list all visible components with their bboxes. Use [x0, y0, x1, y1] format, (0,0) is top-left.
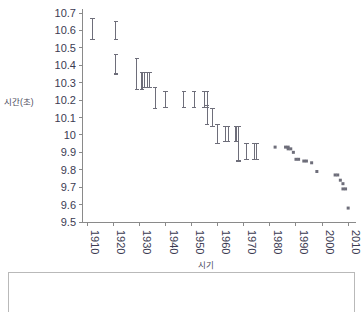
- y-tick-label: 9.6: [61, 199, 76, 211]
- data-point-marker: [344, 187, 347, 190]
- error-bar: [215, 124, 219, 143]
- error-bar: [163, 91, 167, 107]
- x-tick-label: 1980: [272, 230, 284, 254]
- data-point-marker: [339, 179, 342, 182]
- error-bar: [114, 22, 118, 39]
- x-tick-label: 2000: [324, 230, 336, 254]
- error-bar: [252, 144, 256, 160]
- y-tick-label: 9.8: [61, 164, 76, 176]
- x-tick-label: 1930: [141, 230, 153, 254]
- data-point-marker: [347, 207, 350, 210]
- error-bar: [234, 126, 238, 142]
- data-point-marker: [315, 170, 318, 173]
- error-bar: [145, 72, 149, 88]
- data-point-marker: [305, 160, 308, 163]
- x-tick-label: 1960: [220, 230, 232, 254]
- data-point-marker: [310, 161, 313, 164]
- data-point-marker: [294, 158, 297, 161]
- error-bar: [210, 109, 214, 126]
- error-bar: [192, 91, 196, 107]
- x-tick-label: 1940: [168, 230, 180, 254]
- error-bar: [226, 126, 230, 142]
- error-bar: [205, 91, 209, 107]
- y-tick-label: 10.3: [55, 77, 76, 89]
- y-tick-label: 10: [64, 129, 76, 141]
- y-tick-label: 9.7: [61, 181, 76, 193]
- y-tick-label: 10.6: [55, 24, 76, 36]
- x-tick-label: 1910: [89, 230, 101, 254]
- y-tick-label: 10.2: [55, 94, 76, 106]
- x-axis-title: 시기: [198, 260, 214, 270]
- y-tick-label: 10.1: [55, 112, 76, 124]
- y-tick-label: 9.9: [61, 146, 76, 158]
- data-point-marker: [341, 182, 344, 185]
- data-point-marker: [289, 147, 292, 150]
- y-tick-label: 9.5: [61, 216, 76, 228]
- data-point-marker: [284, 146, 287, 149]
- x-tick-label: 1970: [246, 230, 258, 254]
- y-tick-label: 10.5: [55, 42, 76, 54]
- error-bar: [148, 72, 152, 88]
- data-point-marker: [302, 160, 305, 163]
- x-tick-label: 1920: [115, 230, 127, 254]
- error-bar: [182, 91, 186, 107]
- x-tick-label: 2010: [350, 230, 362, 254]
- error-bar: [223, 126, 227, 142]
- x-tick-label: 1990: [298, 230, 310, 254]
- data-point-marker: [287, 147, 290, 150]
- data-point-marker: [334, 173, 337, 176]
- error-bar: [153, 88, 157, 109]
- x-tick-label: 1950: [194, 230, 206, 254]
- error-bar: [114, 55, 118, 74]
- error-bar: [236, 126, 240, 161]
- error-bar: [244, 144, 248, 160]
- data-point-marker: [336, 173, 339, 176]
- error-bar: [135, 58, 139, 89]
- error-bar: [142, 72, 146, 88]
- y-tick-label: 10.7: [55, 7, 76, 19]
- error-bar: [202, 91, 206, 107]
- footer-panel: [8, 272, 355, 312]
- data-point-marker: [297, 158, 300, 161]
- y-axis-title: 시간(초): [4, 97, 34, 107]
- y-tick-label: 10.4: [55, 59, 76, 71]
- error-bar: [255, 144, 259, 160]
- error-bar: [205, 105, 209, 124]
- error-bar: [140, 72, 144, 89]
- error-bar: [90, 18, 94, 39]
- data-point-marker: [274, 146, 277, 149]
- data-point-marker: [292, 151, 295, 154]
- data-point-marker: [341, 187, 344, 190]
